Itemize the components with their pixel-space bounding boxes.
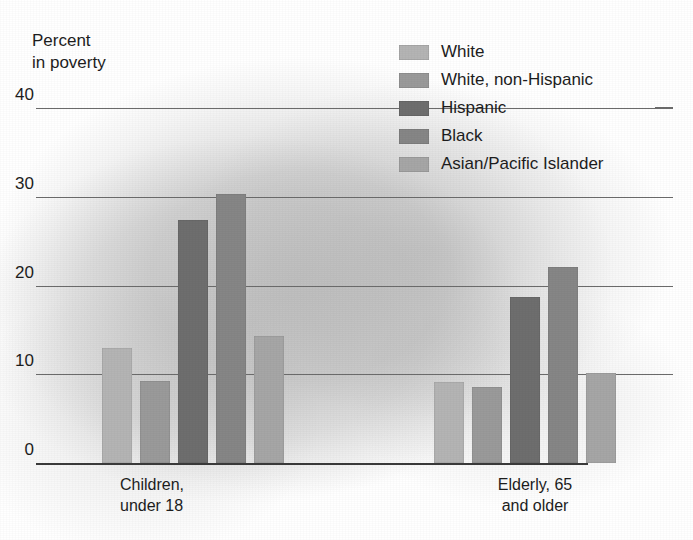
bar-children-white-non-hispanic <box>140 381 170 463</box>
bar-children-black <box>216 194 246 463</box>
bar-children-hispanic <box>178 220 208 463</box>
bar-children-white <box>102 348 132 463</box>
legend-item: Hispanic <box>399 94 689 122</box>
chart-page: Percent in poverty 010203040 Children, u… <box>0 0 693 540</box>
legend-label: White <box>441 42 484 62</box>
bar-elderly-black <box>548 267 578 463</box>
legend-label: Asian/Pacific Islander <box>441 154 604 174</box>
legend-label: Hispanic <box>441 98 506 118</box>
x-axis-label-children: Children, under 18 <box>120 474 280 516</box>
legend-swatch-icon <box>399 101 429 116</box>
gridline-0 <box>36 463 588 465</box>
legend-swatch-icon <box>399 45 429 60</box>
legend-item: White, non-Hispanic <box>399 66 689 94</box>
legend-swatch-icon <box>399 129 429 144</box>
y-axis-title: Percent in poverty <box>32 30 106 74</box>
y-tick-label-0: 0 <box>0 440 34 460</box>
legend-item: Black <box>399 122 689 150</box>
legend-swatch-icon <box>399 157 429 172</box>
y-tick-label-20: 20 <box>0 263 34 283</box>
legend: WhiteWhite, non-HispanicHispanicBlackAsi… <box>399 38 689 178</box>
bar-elderly-asian-pacific-islander <box>586 373 616 463</box>
y-tick-label-10: 10 <box>0 351 34 371</box>
legend-label: Black <box>441 126 483 146</box>
bar-children-asian-pacific-islander <box>254 336 284 463</box>
bar-elderly-hispanic <box>510 297 540 463</box>
y-tick-label-40: 40 <box>0 85 34 105</box>
x-axis-label-elderly: Elderly, 65 and older <box>455 474 615 516</box>
legend-swatch-icon <box>399 73 429 88</box>
legend-label: White, non-Hispanic <box>441 70 593 90</box>
y-tick-label-30: 30 <box>0 174 34 194</box>
legend-item: White <box>399 38 689 66</box>
bar-elderly-white-non-hispanic <box>472 387 502 463</box>
bar-elderly-white <box>434 382 464 463</box>
legend-item: Asian/Pacific Islander <box>399 150 689 178</box>
